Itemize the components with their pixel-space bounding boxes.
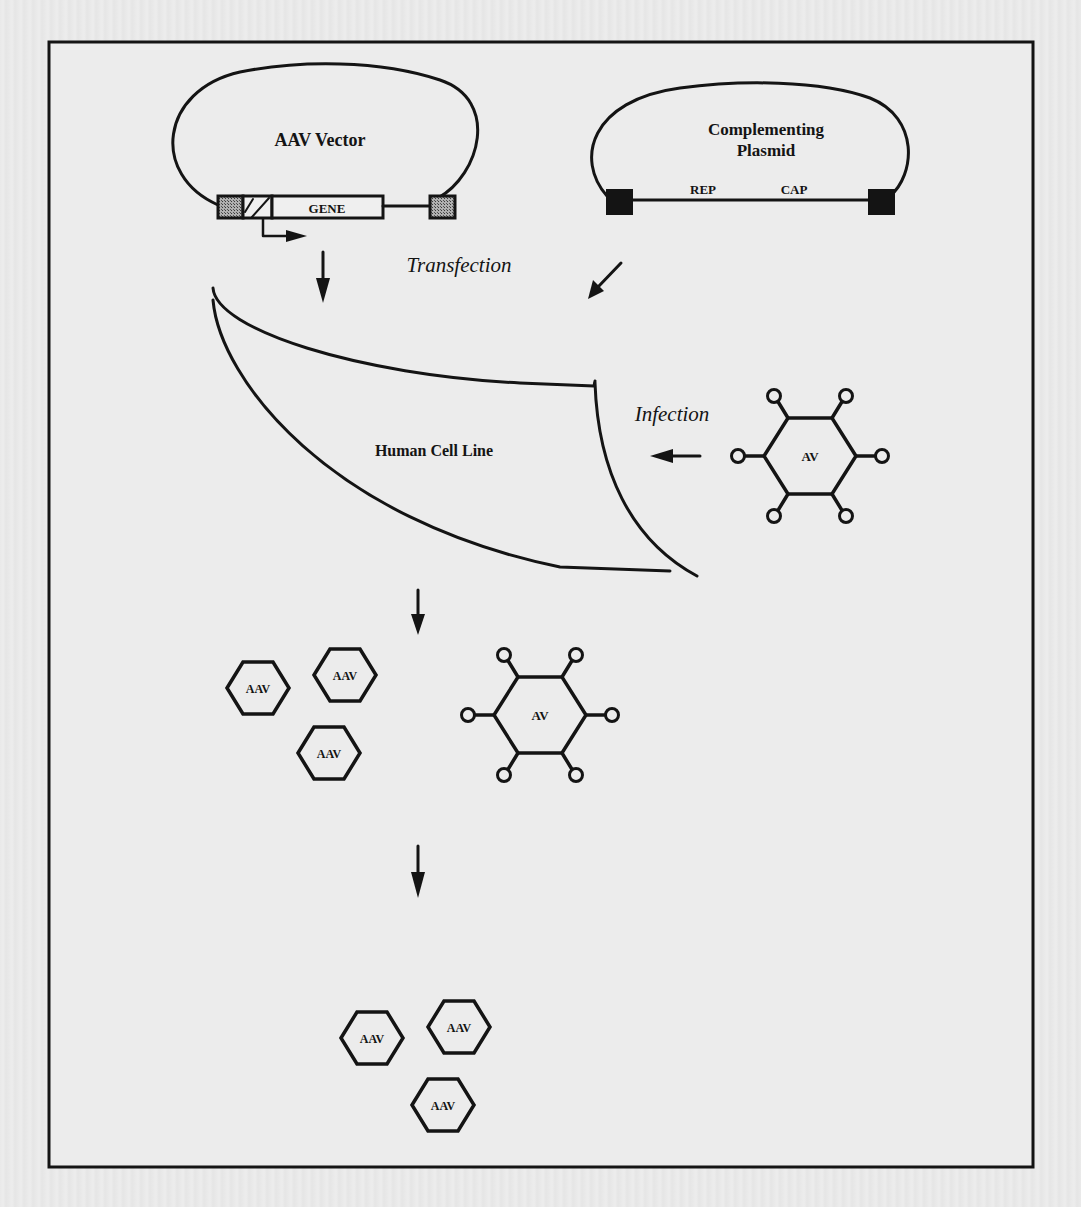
transfection-label: Transfection <box>406 253 511 277</box>
aav-label: AAV <box>360 1032 385 1046</box>
aav-particle: AAV <box>314 649 376 701</box>
aav-label: AAV <box>246 682 271 696</box>
aav-particle: AAV <box>227 662 289 714</box>
page: AAV Vector GENE Complementing Plasmid RE… <box>0 0 1081 1207</box>
plasmid-left-block <box>606 189 633 215</box>
aav-label: AAV <box>447 1021 472 1035</box>
rep-label: REP <box>690 182 716 197</box>
gene-label: GENE <box>309 201 346 216</box>
aav-label: AAV <box>333 669 358 683</box>
infection-label: Infection <box>634 402 710 426</box>
aav-particle: AAV <box>341 1012 403 1064</box>
aav-vector-title: AAV Vector <box>275 130 366 150</box>
right-itr <box>430 196 455 218</box>
complementing-plasmid-title-line2: Plasmid <box>737 141 796 160</box>
av-label: AV <box>801 449 819 464</box>
human-cell-line-label: Human Cell Line <box>375 442 493 459</box>
aav-label: AAV <box>317 747 342 761</box>
plasmid-right-block <box>868 189 895 215</box>
av-label: AV <box>531 708 549 723</box>
left-itr <box>218 196 243 218</box>
aav-label: AAV <box>431 1099 456 1113</box>
cap-label: CAP <box>781 182 808 197</box>
complementing-plasmid-title-line1: Complementing <box>708 120 825 139</box>
aav-particle: AAV <box>412 1079 474 1131</box>
aav-particle: AAV <box>298 727 360 779</box>
aav-production-diagram: AAV Vector GENE Complementing Plasmid RE… <box>0 0 1081 1207</box>
aav-particle: AAV <box>428 1001 490 1053</box>
